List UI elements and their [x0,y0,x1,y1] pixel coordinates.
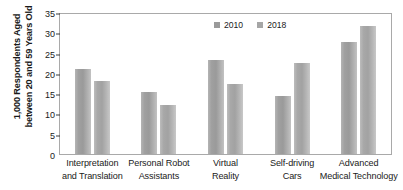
y-axis-title-line-2: between 20 and 59 Years Old [23,1,35,133]
legend-item-2010[interactable]: 2010 [214,20,243,30]
bar-group [208,14,243,154]
bar-2018[interactable] [294,63,310,154]
x-axis-category-label: AdvancedMedical Technology [313,157,403,182]
bar-series-layer [60,14,391,154]
y-axis-title-container: 1,000 Respondents Aged between 20 and 59… [0,0,46,160]
bar-2010[interactable] [141,92,157,154]
bar-group [75,14,110,154]
bar-group [341,14,376,154]
bar-2010[interactable] [275,96,291,154]
chart-legend: 2010 2018 [214,20,286,30]
legend-label-2018: 2018 [267,20,286,30]
bar-2010[interactable] [208,60,224,154]
bar-2018[interactable] [360,26,376,154]
bar-2018[interactable] [160,105,176,154]
legend-swatch-icon-2018 [257,22,263,28]
bar-2018[interactable] [227,84,243,154]
legend-item-2018[interactable]: 2018 [257,20,286,30]
x-axis-tick-labels: Interpretationand TranslationPersonal Ro… [59,157,392,190]
legend-swatch-icon-2010 [214,22,220,28]
bar-group [141,14,176,154]
legend-label-2010: 2010 [224,20,243,30]
plot-area: 05101520253035 2010 2018 [59,13,392,155]
bar-2018[interactable] [94,81,110,154]
bar-2010[interactable] [341,42,357,154]
bar-group [275,14,310,154]
y-axis-title-line-1: 1,000 Respondents Aged [12,14,22,120]
bar-2010[interactable] [75,69,91,154]
x-axis-category-label-line-1: Advanced [313,157,403,170]
x-axis-category-label-line-2: Medical Technology [313,170,403,183]
y-axis-title: 1,000 Respondents Aged between 20 and 59… [12,1,35,133]
